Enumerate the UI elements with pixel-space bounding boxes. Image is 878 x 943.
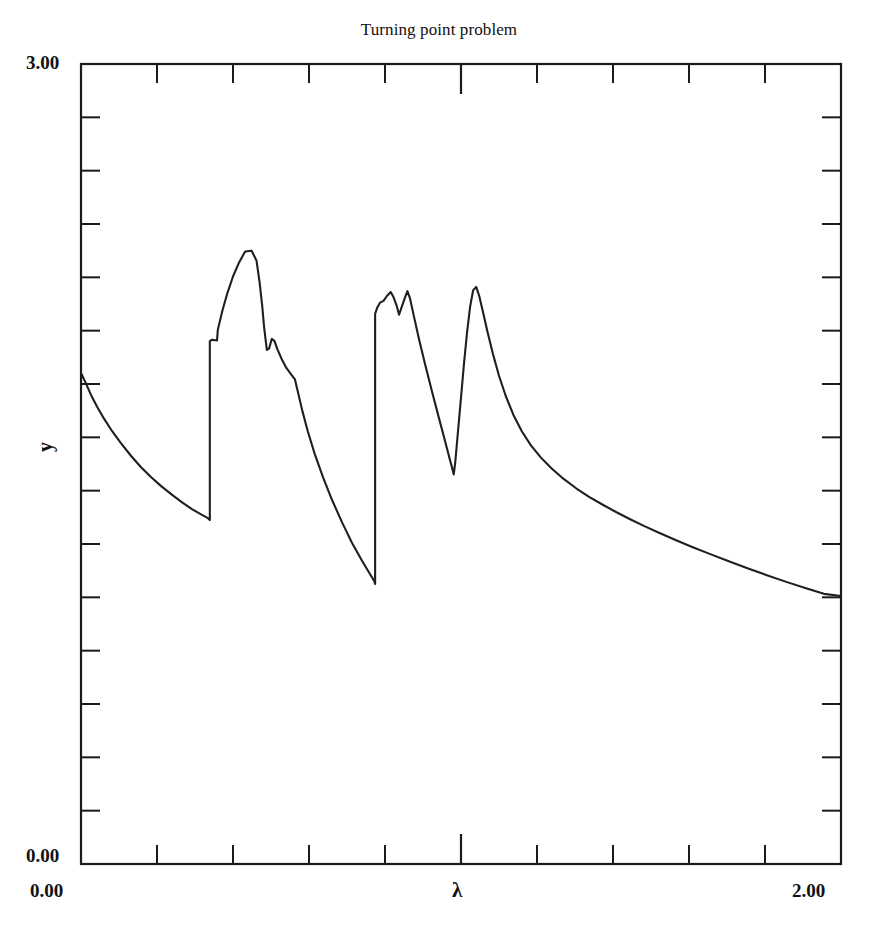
chart-title: Turning point problem bbox=[0, 20, 878, 40]
y-axis-max-tick-label: 3.00 bbox=[26, 52, 59, 74]
figure-container: Turning point problem 3.00 0.00 0.00 2.0… bbox=[0, 0, 878, 943]
x-axis-ticks bbox=[157, 64, 765, 864]
y-axis-label: y bbox=[34, 442, 57, 452]
data-series-line bbox=[81, 251, 841, 596]
y-axis-ticks bbox=[81, 117, 841, 810]
x-axis-max-tick-label: 2.00 bbox=[792, 880, 825, 902]
x-axis-min-tick-label: 0.00 bbox=[30, 880, 63, 902]
x-axis-label: λ bbox=[452, 878, 462, 903]
plot-frame bbox=[81, 64, 841, 864]
y-axis-min-tick-label: 0.00 bbox=[26, 845, 59, 867]
plot-area bbox=[0, 0, 878, 943]
